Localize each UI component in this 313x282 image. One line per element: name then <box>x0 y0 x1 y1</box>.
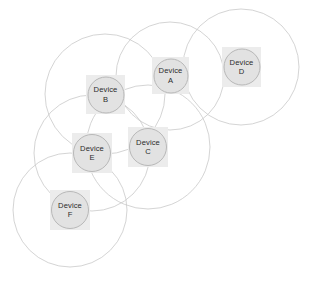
device-node-circle-F <box>51 191 89 229</box>
device-node-C[interactable]: Device C <box>128 127 168 167</box>
network-coverage-diagram: Device A Device B Device C Device D Devi… <box>0 0 313 282</box>
device-node-circle-A <box>153 58 188 93</box>
device-node-circle-D <box>223 49 260 86</box>
device-node-circle-B <box>87 76 124 113</box>
device-node-E[interactable]: Device E <box>72 133 112 173</box>
device-node-circle-E <box>73 134 111 172</box>
device-node-F[interactable]: Device F <box>50 190 90 230</box>
device-node-A[interactable]: Device A <box>152 57 189 94</box>
device-node-B[interactable]: Device B <box>86 75 125 114</box>
device-node-circle-C <box>129 128 167 166</box>
device-node-D[interactable]: Device D <box>222 47 261 87</box>
